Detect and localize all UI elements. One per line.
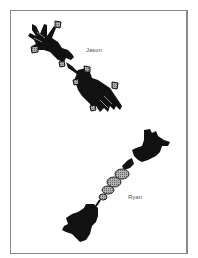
figure-drawing [0, 0, 198, 258]
label-jason: Jason [86, 47, 102, 53]
jason-silhouette-upper [28, 21, 74, 67]
label-ryan: Ryan [128, 194, 142, 200]
ryan-silhouette-lower [62, 204, 98, 242]
jason-silhouette-lower [73, 66, 122, 112]
ryan-silhouette-upper [132, 129, 170, 162]
